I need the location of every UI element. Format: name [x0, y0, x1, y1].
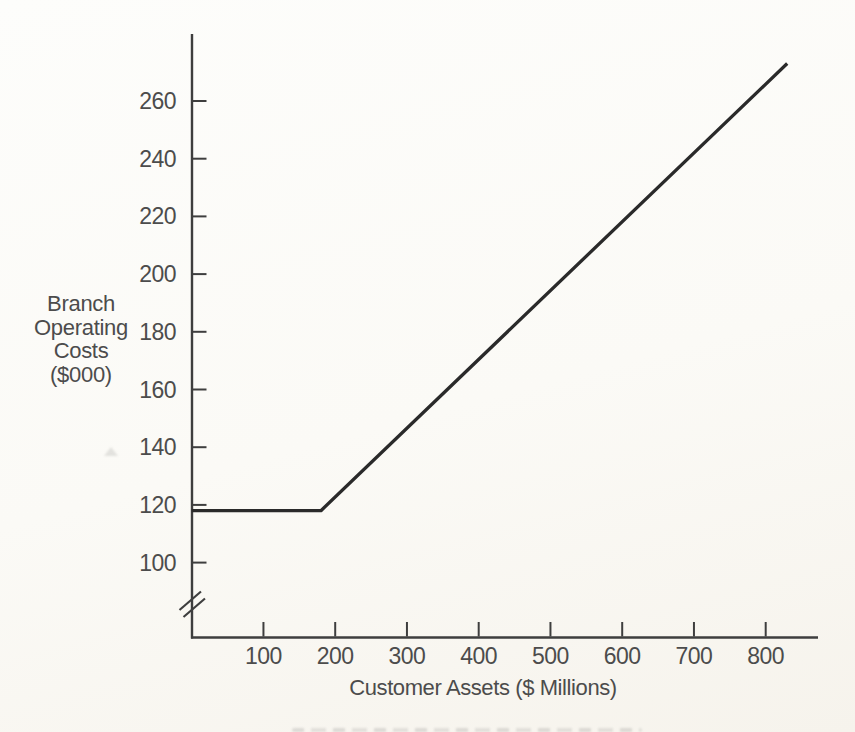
cropped-caption-remnant: [292, 728, 642, 732]
y-tick-label: 140: [116, 435, 176, 459]
x-axis-title: Customer Assets ($ Millions): [332, 675, 634, 701]
y-tick-label: 100: [116, 551, 176, 575]
x-tick-label: 300: [367, 644, 447, 668]
x-tick-label: 400: [439, 644, 519, 668]
y-tick-label: 260: [116, 89, 176, 113]
y-tick-label: 160: [116, 378, 176, 402]
y-tick-label: 200: [116, 262, 176, 286]
axis-break-mark: [184, 599, 206, 618]
y-tick-label: 240: [116, 147, 176, 171]
y-tick-label: 120: [116, 493, 176, 517]
x-tick-label: 800: [726, 644, 806, 668]
x-tick-label: 500: [510, 644, 590, 668]
x-tick-label: 200: [295, 644, 375, 668]
axis-break-mark: [180, 592, 202, 611]
scan-smudge: [104, 447, 118, 456]
branch-operating-cost-line: [192, 64, 788, 511]
y-axis-title-line: Branch: [22, 292, 140, 316]
x-tick-label: 600: [582, 644, 662, 668]
scanned-chart-page: Branch Operating Costs ($000) Customer A…: [0, 0, 855, 732]
y-tick-label: 220: [116, 204, 176, 228]
x-tick-label: 100: [223, 644, 303, 668]
x-tick-label: 700: [654, 644, 734, 668]
y-tick-label: 180: [116, 320, 176, 344]
